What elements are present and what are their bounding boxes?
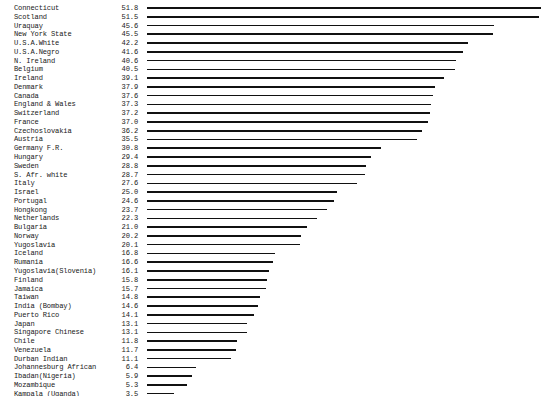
chart-row: Czechoslovakia36.2 [0, 127, 548, 136]
chart-row: Chile11.8 [0, 337, 548, 346]
bar [147, 279, 267, 281]
bar [147, 349, 236, 351]
bar-track [147, 83, 546, 92]
value-label: 24.6 [112, 197, 138, 206]
value-label: 37.9 [112, 83, 138, 92]
category-label: Japan [14, 320, 35, 329]
value-label: 29.4 [112, 153, 138, 162]
category-label: Denmark [14, 83, 43, 92]
chart-row: Durban Indian11.1 [0, 355, 548, 364]
value-label: 14.8 [112, 293, 138, 302]
value-label: 30.8 [112, 144, 138, 153]
chart-row: Bulgaria21.0 [0, 223, 548, 232]
chart-row: Denmark37.9 [0, 83, 548, 92]
value-label: 22.3 [112, 214, 138, 223]
bar [147, 235, 301, 237]
chart-row: Puerto Rico14.1 [0, 311, 548, 320]
bar-track [147, 127, 546, 136]
category-label: Taiwan [14, 293, 39, 302]
bar [147, 314, 254, 316]
bar [147, 121, 428, 123]
value-label: 36.2 [112, 127, 138, 136]
category-label: Yugoslavia(Slovenia) [14, 267, 96, 276]
category-label: Connecticut [14, 4, 59, 13]
value-label: 41.6 [112, 48, 138, 57]
category-label: Italy [14, 179, 35, 188]
value-label: 14.6 [112, 302, 138, 311]
chart-row: France37.0 [0, 118, 548, 127]
chart-row: Belgium40.5 [0, 65, 548, 74]
value-label: 35.5 [112, 135, 138, 144]
chart-row: New York State45.5 [0, 30, 548, 39]
bar [147, 112, 430, 114]
chart-row: Netherlands22.3 [0, 214, 548, 223]
bar-track [147, 390, 546, 396]
bar [147, 244, 300, 246]
chart-row: Kampala (Uganda)3.5 [0, 390, 548, 396]
chart-row: Jamaica15.7 [0, 285, 548, 294]
bar [147, 16, 539, 18]
category-label: England & Wales [14, 100, 76, 109]
chart-row: Yugoslavia20.1 [0, 241, 548, 250]
value-label: 13.1 [112, 320, 138, 329]
chart-row: Japan13.1 [0, 320, 548, 329]
category-label: France [14, 118, 39, 127]
chart-row: Hongkong23.7 [0, 206, 548, 215]
bar-track [147, 346, 546, 355]
chart-row: U.S.A.Negro41.6 [0, 48, 548, 57]
category-label: Switzerland [14, 109, 59, 118]
bar-track [147, 249, 546, 258]
value-label: 16.8 [112, 249, 138, 258]
value-label: 11.7 [112, 346, 138, 355]
bar [147, 367, 196, 369]
bar-track [147, 74, 546, 83]
chart-row: Finland15.8 [0, 276, 548, 285]
bar [147, 305, 258, 307]
chart-row: N. Ireland40.6 [0, 57, 548, 66]
category-label: Chile [14, 337, 35, 346]
value-label: 37.6 [112, 92, 138, 101]
bar [147, 226, 307, 228]
bar [147, 77, 444, 79]
value-label: 15.8 [112, 276, 138, 285]
chart-row: Austria35.5 [0, 135, 548, 144]
value-label: 21.0 [112, 223, 138, 232]
value-label: 23.7 [112, 206, 138, 215]
category-label: Singapore Chinese [14, 328, 84, 337]
bar-track [147, 206, 546, 215]
chart-row: Portugal24.6 [0, 197, 548, 206]
bar-track [147, 293, 546, 302]
bar [147, 253, 275, 255]
chart-row: Iceland16.8 [0, 249, 548, 258]
category-label: N. Ireland [14, 57, 55, 66]
bar-track [147, 144, 546, 153]
category-label: Johannesburg African [14, 363, 96, 372]
bar [147, 261, 273, 263]
value-label: 40.6 [112, 57, 138, 66]
category-label: Sweden [14, 162, 39, 171]
bar-track [147, 381, 546, 390]
chart-row: England & Wales37.3 [0, 100, 548, 109]
category-label: Portugal [14, 197, 47, 206]
category-label: Venezuela [14, 346, 51, 355]
category-label: Austria [14, 135, 43, 144]
chart-row: Israel25.0 [0, 188, 548, 197]
bar-track [147, 241, 546, 250]
bar [147, 200, 334, 202]
bar [147, 156, 371, 158]
chart-row: Rumania16.6 [0, 258, 548, 267]
chart-row: Connecticut51.8 [0, 4, 548, 13]
chart-row: India (Bombay)14.6 [0, 302, 548, 311]
value-label: 5.9 [112, 372, 138, 381]
category-label: Mozambique [14, 381, 55, 390]
category-label: Bulgaria [14, 223, 47, 232]
bar [147, 51, 463, 53]
bar-track [147, 214, 546, 223]
bar [147, 174, 365, 176]
category-label: New York State [14, 30, 72, 39]
bar [147, 288, 266, 290]
bar [147, 384, 187, 386]
value-label: 37.2 [112, 109, 138, 118]
value-label: 16.6 [112, 258, 138, 267]
bar-track [147, 355, 546, 364]
